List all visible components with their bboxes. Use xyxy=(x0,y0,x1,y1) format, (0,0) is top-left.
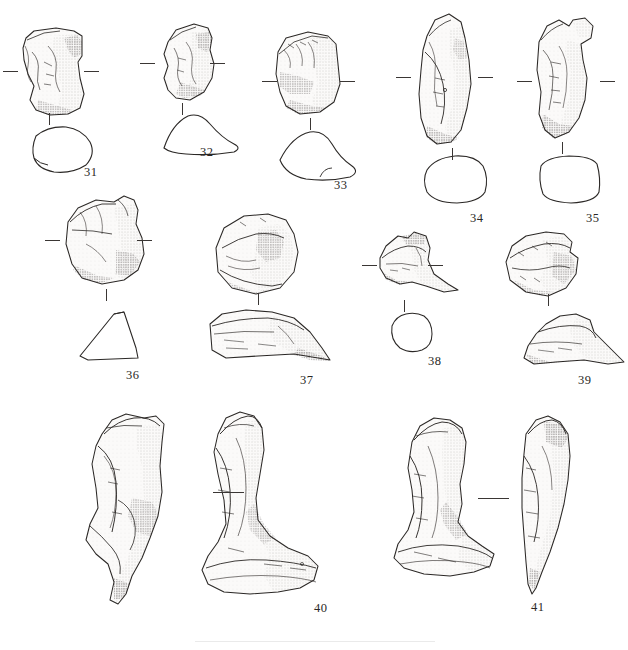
specimen-34-body xyxy=(419,14,471,144)
specimen-35-body xyxy=(537,18,593,138)
tick-mark-31-center xyxy=(49,113,50,125)
specimen-39-lateral-view xyxy=(524,314,624,364)
specimen-37-lateral-view xyxy=(210,310,330,361)
specimen-34-cross-section xyxy=(425,156,487,203)
tick-mark-36-center xyxy=(106,289,107,301)
specimen-37-proximal-view xyxy=(216,214,298,294)
specimen-figure-33 xyxy=(268,28,393,183)
tick-mark-37-center xyxy=(258,293,259,305)
tick-mark-33-center xyxy=(310,118,311,130)
tick-mark-38-right xyxy=(428,265,443,266)
specimen-31-drawing xyxy=(14,22,134,172)
specimen-37-drawing xyxy=(198,208,358,373)
specimen-label-40: 40 xyxy=(314,601,328,616)
specimen-figure-39 xyxy=(498,228,628,378)
specimen-label-31: 31 xyxy=(84,165,98,180)
specimen-40-anterior-view xyxy=(202,412,318,594)
tick-mark-41-scale xyxy=(478,498,509,499)
tick-mark-33-left xyxy=(262,81,277,82)
specimen-label-33: 33 xyxy=(334,178,348,193)
page-bottom-artifact xyxy=(195,641,435,642)
specimen-figure-34 xyxy=(405,12,525,202)
specimen-35-drawing xyxy=(525,14,628,204)
specimen-38-drawing xyxy=(372,228,482,358)
specimen-34-drawing xyxy=(405,12,525,202)
specimen-40-lateral-view xyxy=(86,414,164,604)
tick-mark-36-right xyxy=(137,240,152,241)
specimen-40-drawing xyxy=(68,408,328,608)
specimen-39-proximal-view xyxy=(506,232,578,296)
specimen-figure-37 xyxy=(198,208,358,373)
specimen-33-body xyxy=(276,32,340,114)
specimen-label-38: 38 xyxy=(428,354,442,369)
tick-mark-36-left xyxy=(45,240,60,241)
tick-mark-40-scale xyxy=(213,492,244,493)
specimen-32-body xyxy=(164,24,214,100)
specimen-41-anterior-view xyxy=(394,418,494,576)
specimen-figure-40 xyxy=(68,408,328,608)
tick-mark-35-right xyxy=(600,81,615,82)
specimen-label-37: 37 xyxy=(300,373,314,388)
tick-mark-32-center xyxy=(182,103,183,115)
specimen-36-body xyxy=(66,196,144,284)
specimen-41-drawing xyxy=(378,412,598,602)
specimen-39-drawing xyxy=(498,228,628,378)
specimen-figure-35 xyxy=(525,14,628,204)
specimen-38-body xyxy=(380,232,458,292)
specimen-33-drawing xyxy=(268,28,393,183)
tick-mark-32-left xyxy=(140,63,155,64)
tick-mark-34-right xyxy=(478,77,493,78)
tick-mark-35-center xyxy=(562,142,563,154)
specimen-figure-36 xyxy=(58,192,183,362)
specimen-label-39: 39 xyxy=(578,373,592,388)
tick-mark-32-right xyxy=(210,63,225,64)
specimen-figure-32 xyxy=(150,20,265,155)
tick-mark-31-right xyxy=(84,71,99,72)
specimen-33-cross-section xyxy=(280,132,356,180)
specimen-label-35: 35 xyxy=(586,211,600,226)
tick-mark-31-left xyxy=(3,71,18,72)
tick-mark-34-center xyxy=(452,148,453,160)
specimen-36-cross-section xyxy=(80,312,138,360)
specimen-41-lateral-view xyxy=(522,416,570,594)
specimen-35-cross-section xyxy=(540,156,600,203)
specimen-label-32: 32 xyxy=(200,145,214,160)
specimen-32-drawing xyxy=(150,20,265,155)
specimen-label-41: 41 xyxy=(531,600,545,615)
tick-mark-35-left xyxy=(517,81,532,82)
tick-mark-33-right xyxy=(340,81,355,82)
tick-mark-39-center xyxy=(548,294,549,306)
tick-mark-34-left xyxy=(396,77,411,78)
specimen-figure-41 xyxy=(378,412,598,602)
specimen-31-body xyxy=(23,28,84,115)
specimen-figure-38 xyxy=(372,228,482,358)
specimen-plate: 31 32 xyxy=(0,0,628,650)
specimen-36-drawing xyxy=(58,192,183,362)
specimen-figure-31 xyxy=(14,22,134,172)
specimen-38-cross-section xyxy=(392,313,432,351)
tick-mark-38-center xyxy=(404,300,405,312)
specimen-label-34: 34 xyxy=(470,211,484,226)
specimen-label-36: 36 xyxy=(126,368,140,383)
tick-mark-38-left xyxy=(362,265,377,266)
